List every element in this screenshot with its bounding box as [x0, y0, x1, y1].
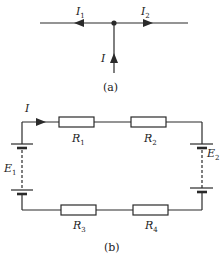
arrow-up-icon — [110, 53, 118, 63]
resistor-r2 — [131, 117, 166, 127]
label-r4: R4 — [144, 219, 158, 234]
label-r3: R3 — [72, 219, 86, 234]
label-current-b: I — [24, 102, 30, 115]
resistor-r3 — [61, 205, 96, 215]
label-r1: R1 — [71, 132, 85, 147]
circuit-figure: I1 I2 I (a) I E1 E2 — [0, 0, 222, 257]
caption-b: (b) — [104, 241, 120, 254]
label-e1: E1 — [3, 162, 17, 177]
resistor-r4 — [133, 205, 168, 215]
label-i-input: I — [100, 52, 106, 65]
label-i1: I1 — [75, 5, 85, 20]
current-arrow-icon — [36, 118, 46, 126]
caption-a: (a) — [103, 81, 118, 94]
series-circuit-diagram: I E1 E2 R1 R2 R3 R4 (b) — [3, 102, 220, 254]
resistor-r1 — [59, 117, 94, 127]
junction-node — [111, 20, 116, 25]
arrow-right-icon — [143, 19, 153, 27]
label-i2: I2 — [140, 5, 150, 20]
junction-diagram: I1 I2 I (a) — [40, 5, 188, 94]
arrow-left-icon — [74, 19, 84, 27]
label-e2: E2 — [206, 147, 220, 162]
label-r2: R2 — [143, 132, 157, 147]
